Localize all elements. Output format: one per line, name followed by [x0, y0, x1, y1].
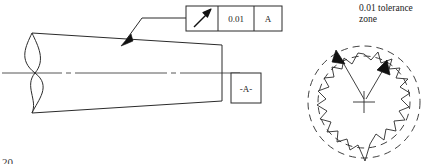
- zone-radius-arrow-right: [366, 60, 390, 99]
- page-corner-mark: 20: [2, 157, 18, 164]
- tolerance-zone-label-line1: 0.01 tolerance: [359, 3, 413, 14]
- shaft-bottom-edge: [32, 101, 222, 113]
- tapered-shaft-group: [2, 33, 268, 113]
- datum-feature-label: -A-: [240, 84, 253, 94]
- measured-surface-profile: [317, 52, 410, 161]
- tolerance-zone-label-line2: zone: [359, 14, 377, 25]
- leader-line: [126, 18, 186, 40]
- tolerance-zone-group: [308, 46, 420, 161]
- measured-surface-profile-group: [317, 52, 410, 161]
- datum-feature-symbol-group[interactable]: -A-: [231, 73, 261, 103]
- feature-control-frame-group[interactable]: 0.01 A: [186, 6, 282, 31]
- fcf-datum-reference: A: [265, 14, 272, 24]
- zone-arrowhead-left-icon: [332, 50, 345, 64]
- fcf-tolerance-value: 0.01: [228, 14, 244, 24]
- drawing-root: 0.01 A -A-: [0, 0, 439, 165]
- leader-arrowhead-icon: [121, 34, 133, 46]
- zone-center-cross-icon: [353, 91, 375, 113]
- zone-radius-arrow-left: [332, 50, 364, 99]
